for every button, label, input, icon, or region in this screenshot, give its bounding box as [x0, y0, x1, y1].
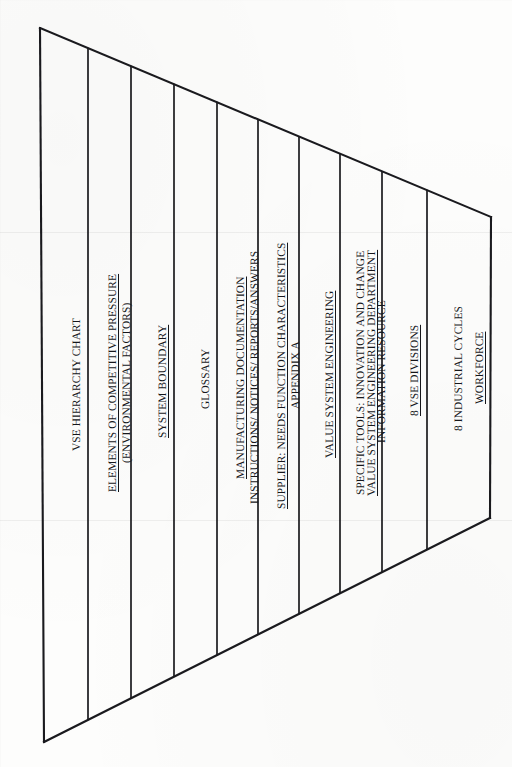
outline-bottom-edge: [44, 518, 490, 742]
outline-left-edge: [40, 28, 44, 742]
outline-right-edge: [490, 217, 491, 518]
trapezoid-outline: [40, 28, 491, 742]
scanned-page: VSE HIERARCHY CHARTELEMENTS OF COMPETITI…: [0, 0, 512, 767]
band-divider-lines: [88, 49, 427, 720]
hierarchy-trapezoid-diagram: [0, 0, 512, 767]
outline-top-edge: [40, 28, 491, 217]
